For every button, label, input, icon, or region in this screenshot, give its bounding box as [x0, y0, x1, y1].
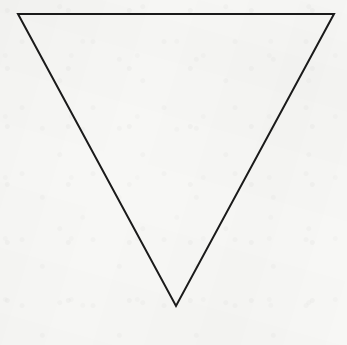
drawing-canvas: [0, 0, 347, 345]
figure-svg: [0, 0, 347, 345]
inverted-triangle-shape: [18, 14, 334, 306]
